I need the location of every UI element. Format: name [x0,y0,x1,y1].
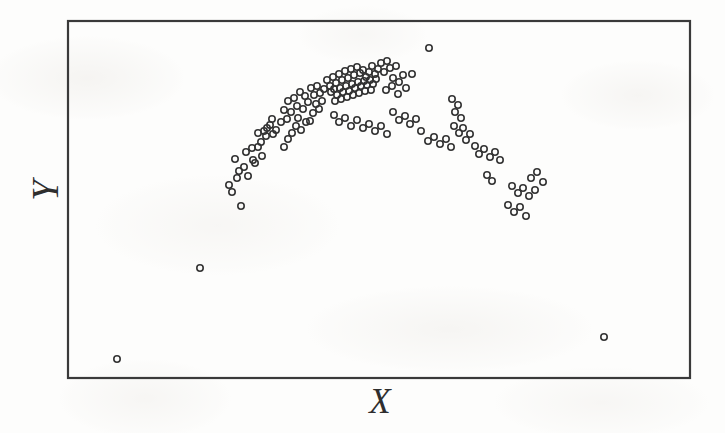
scatter-point [400,72,406,78]
scatter-point [484,172,490,178]
plot-canvas [0,0,725,433]
scatter-point [402,113,408,119]
scatter-point [295,115,301,121]
scatter-point [390,75,396,81]
scatter-point [532,187,538,193]
scatter-point [520,185,526,191]
scatter-point [234,175,240,181]
plot-frame-border [68,21,690,378]
scatter-point-group [114,45,607,362]
scatter-point [389,83,395,89]
y-axis-label: Y [27,168,64,214]
scatter-point [395,91,401,97]
scatter-point [243,149,249,155]
scatter-plot-figure: Y X [0,0,725,433]
scatter-point [281,107,287,113]
scatter-point [396,117,402,123]
scatter-point [458,115,464,121]
scatter-point [393,63,399,69]
scatter-point [114,356,120,362]
scatter-point [505,202,511,208]
scatter-point [336,119,342,125]
scatter-point [245,173,251,179]
scatter-point [534,169,540,175]
scatter-point [319,98,325,104]
scatter-point [467,131,473,137]
scatter-point [472,143,478,149]
scatter-point [425,138,431,144]
scatter-point [354,117,360,123]
scatter-point [451,123,457,129]
scatter-point [481,146,487,152]
scatter-point [384,131,390,137]
scatter-point [259,153,265,159]
scatter-point [197,265,203,271]
scatter-point [241,164,247,170]
scatter-point [418,128,424,134]
scatter-point [517,204,523,210]
scatter-point [431,134,437,140]
scatter-point [452,109,458,115]
scatter-point [378,123,384,129]
scatter-point [437,141,443,147]
scatter-point [460,125,466,131]
scatter-point [381,69,387,75]
scatter-point [372,128,378,134]
scatter-point [281,144,287,150]
scatter-point [407,121,413,127]
scatter-point [492,149,498,155]
scatter-point [413,116,419,122]
scatter-point [305,99,311,105]
scatter-point [331,112,337,118]
scatter-point [443,136,449,142]
scatter-point [384,58,390,64]
scatter-point [528,175,534,181]
scatter-point [310,110,316,116]
scatter-point [426,45,432,51]
scatter-point [229,189,235,195]
scatter-point [449,96,455,102]
scatter-point [298,127,304,133]
scatter-point [396,79,402,85]
scatter-point [269,116,275,122]
scatter-point [288,109,294,115]
scatter-point [307,118,313,124]
scatter-point [497,157,503,163]
scatter-point [314,83,320,89]
x-axis-label: X [352,384,408,419]
scatter-point [238,203,244,209]
scatter-point [284,116,290,122]
scatter-point [383,87,389,93]
scatter-point [226,182,232,188]
scatter-point [291,95,297,101]
scatter-point [489,178,495,184]
scatter-point [526,193,532,199]
scatter-point [285,136,291,142]
scatter-point [448,144,454,150]
scatter-point [540,179,546,185]
scatter-point [366,121,372,127]
scatter-point [289,130,295,136]
scatter-point [523,213,529,219]
scatter-point [409,71,415,77]
scatter-point [360,125,366,131]
scatter-point [511,209,517,215]
scatter-point [390,109,396,115]
scatter-point [601,334,607,340]
scatter-point [455,102,461,108]
scatter-point [403,85,409,91]
scatter-point [232,156,238,162]
scatter-point [463,137,469,143]
scatter-point [348,123,354,129]
scatter-point [342,115,348,121]
scatter-point [509,183,515,189]
scatter-point [300,106,306,112]
scatter-point [316,106,322,112]
